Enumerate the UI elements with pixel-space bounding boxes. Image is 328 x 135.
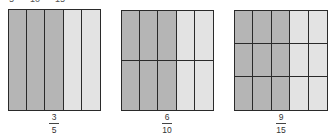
shaded-cell [235, 44, 253, 77]
fraction-denominator: 5 [39, 124, 69, 135]
fraction-label: 610 [152, 113, 182, 134]
fraction-numerator: 3 [39, 113, 69, 123]
fraction-denominator: 15 [266, 124, 296, 135]
clipped-top-label: 10 [30, 0, 40, 4]
unshaded-cell [177, 61, 195, 111]
fraction-grid-3-5 [8, 9, 101, 111]
shaded-cell [253, 77, 271, 110]
shaded-cell [140, 11, 158, 61]
fraction-label: 35 [39, 113, 69, 134]
unshaded-cell [290, 44, 308, 77]
shaded-cell [235, 77, 253, 110]
unshaded-cell [195, 61, 213, 111]
shaded-cell [122, 11, 140, 61]
unshaded-cell [309, 11, 327, 44]
fraction-numerator: 9 [266, 113, 296, 123]
fraction-numerator: 6 [152, 113, 182, 123]
shaded-cell [45, 10, 63, 110]
shaded-cell [158, 11, 176, 61]
shaded-cell [253, 44, 271, 77]
fraction-grid-9-15 [234, 10, 328, 111]
shaded-cell [122, 61, 140, 111]
unshaded-cell [309, 44, 327, 77]
fraction-label: 915 [266, 113, 296, 134]
unshaded-cell [290, 11, 308, 44]
fraction-grid-6-10 [121, 10, 214, 111]
shaded-cell [235, 11, 253, 44]
unshaded-cell [82, 10, 100, 110]
shaded-cell [158, 61, 176, 111]
unshaded-cell [177, 11, 195, 61]
shaded-cell [253, 11, 271, 44]
unshaded-cell [290, 77, 308, 110]
unshaded-cell [195, 11, 213, 61]
unshaded-cell [309, 77, 327, 110]
shaded-cell [272, 77, 290, 110]
shaded-cell [272, 11, 290, 44]
clipped-top-label: 15 [55, 0, 65, 4]
shaded-cell [27, 10, 45, 110]
shaded-cell [272, 44, 290, 77]
shaded-cell [9, 10, 27, 110]
clipped-top-label: 5 [9, 0, 14, 4]
shaded-cell [140, 61, 158, 111]
unshaded-cell [64, 10, 82, 110]
fraction-denominator: 10 [152, 124, 182, 135]
